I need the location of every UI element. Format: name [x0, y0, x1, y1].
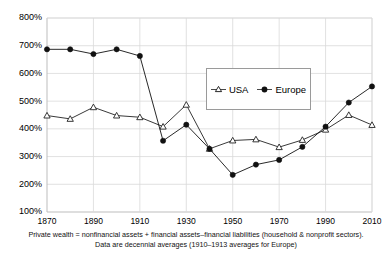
data-point-usa [346, 112, 352, 118]
chart-legend: USA Europe [206, 68, 311, 110]
data-point-europe [207, 146, 212, 151]
data-point-europe [114, 47, 119, 52]
data-point-europe [253, 162, 258, 167]
x-axis-tick-label: 1970 [270, 216, 289, 226]
legend-label-europe: Europe [275, 84, 306, 95]
circle-marker-icon [257, 85, 272, 94]
y-axis-tick-label: 700% [19, 40, 42, 50]
data-point-europe [68, 47, 73, 52]
x-axis-tick-label: 2010 [363, 216, 382, 226]
data-point-usa [299, 137, 305, 143]
data-point-europe [184, 122, 189, 127]
x-axis-tick-label: 1910 [130, 216, 149, 226]
data-point-europe [160, 138, 165, 143]
data-point-europe [323, 124, 328, 129]
triangle-marker-icon [211, 85, 226, 94]
y-axis-tick-label: 200% [19, 179, 42, 189]
chart-caption-line-2: Data are decennial averages (1910–1913 a… [0, 240, 392, 250]
x-axis-tick-label: 1950 [223, 216, 242, 226]
legend-item-europe: Europe [257, 84, 306, 95]
data-point-europe [91, 51, 96, 56]
data-point-usa [369, 122, 375, 128]
x-axis-tick-label: 1930 [177, 216, 196, 226]
x-axis-tick-label: 1990 [316, 216, 335, 226]
y-axis-tick-label: 600% [19, 68, 42, 78]
line-chart: 100%200%300%400%500%600%700%800%18701890… [0, 0, 392, 257]
legend-item-usa: USA [211, 84, 249, 95]
chart-caption-line-1: Private wealth = nonfinancial assets + f… [0, 230, 392, 240]
x-axis-tick-label: 1890 [84, 216, 103, 226]
data-point-europe [369, 84, 374, 89]
data-point-europe [44, 47, 49, 52]
chart-page: 100%200%300%400%500%600%700%800%18701890… [0, 0, 392, 257]
data-point-europe [277, 157, 282, 162]
legend-label-usa: USA [229, 84, 249, 95]
data-point-usa [44, 112, 50, 118]
y-axis-tick-label: 800% [19, 12, 42, 22]
data-point-europe [137, 53, 142, 58]
data-point-europe [346, 100, 351, 105]
data-point-europe [300, 144, 305, 149]
y-axis-tick-label: 300% [19, 151, 42, 161]
y-axis-tick-label: 500% [19, 96, 42, 106]
data-point-usa [183, 102, 189, 108]
data-point-usa [90, 104, 96, 110]
chart-plot-area: 100%200%300%400%500%600%700%800%18701890… [0, 0, 392, 257]
y-axis-tick-label: 400% [19, 123, 42, 133]
data-point-europe [230, 172, 235, 177]
x-axis-tick-label: 1870 [38, 216, 57, 226]
y-axis-tick-label: 100% [19, 206, 42, 216]
